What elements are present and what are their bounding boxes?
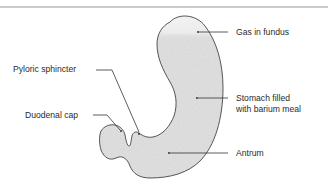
stomach-label-line1: Stomach filled (236, 93, 290, 103)
pyloric-sphincter-label: Pyloric sphincter (13, 64, 76, 74)
pointer-dot (168, 152, 170, 154)
pointer-dot (120, 130, 122, 132)
stomach-diagram: Gas in fundus Pyloric sphincter Stomach … (0, 0, 328, 186)
gas-region (150, 10, 220, 40)
stomach-shape (95, 10, 235, 185)
label-pyloric-sphincter: Pyloric sphincter (13, 64, 140, 135)
pointer-dot (196, 97, 198, 99)
stomach-label-line2: with barium meal (235, 104, 301, 114)
pointer-dot (197, 31, 199, 33)
gas-in-fundus-label: Gas in fundus (236, 27, 289, 37)
duodenal-cap-label: Duodenal cap (25, 110, 78, 120)
pointer-dot (138, 133, 140, 135)
antrum-label: Antrum (236, 148, 264, 158)
leader-line (96, 70, 139, 132)
